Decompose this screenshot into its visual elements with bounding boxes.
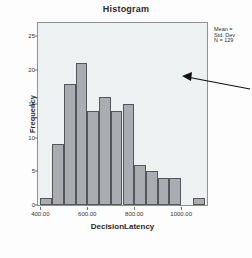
- y-axis-tick-label: 15: [21, 101, 35, 107]
- histogram-bar: [76, 63, 88, 205]
- histogram-bar: [169, 178, 181, 205]
- plot-area: Frequency 0510152025400.00600.00800.0010…: [37, 22, 208, 206]
- y-axis-tick-mark: [35, 205, 38, 206]
- page-title: Histogram: [0, 4, 252, 14]
- stats-n: N = 129: [214, 38, 235, 44]
- histogram-bar: [146, 171, 158, 205]
- x-axis-label: DecisionLatency: [37, 222, 208, 231]
- histogram-bar: [158, 178, 170, 205]
- statistics-annotation: Mean = Std. Dev N = 129: [214, 27, 235, 44]
- x-axis-tick-label: 1000.00: [161, 211, 201, 217]
- x-axis-tick-label: 800.00: [114, 211, 154, 217]
- histogram-bar: [52, 144, 64, 205]
- y-axis-tick-label: 20: [21, 67, 35, 73]
- histogram-bar: [193, 198, 205, 205]
- histogram-bar: [123, 104, 135, 205]
- y-axis-tick-label: 25: [21, 33, 35, 39]
- y-axis-tick-label: 5: [21, 168, 35, 174]
- x-axis-tick-mark: [87, 207, 88, 210]
- x-axis-tick-label: 600.00: [67, 211, 107, 217]
- x-axis-tick-mark: [134, 207, 135, 210]
- y-axis-tick-label: 10: [21, 135, 35, 141]
- y-axis-tick-mark: [35, 171, 38, 172]
- histogram-figure: Histogram Frequency 0510152025400.00600.…: [0, 0, 252, 258]
- x-axis-tick-mark: [40, 207, 41, 210]
- plot-inner: [38, 23, 207, 205]
- y-axis-tick-mark: [35, 137, 38, 138]
- histogram-bar: [64, 84, 76, 205]
- y-axis-tick-mark: [35, 103, 38, 104]
- y-axis-tick-label: 0: [21, 202, 35, 208]
- y-axis-tick-mark: [35, 36, 38, 37]
- histogram-bar: [134, 165, 146, 205]
- histogram-bar: [111, 111, 123, 205]
- histogram-bar: [99, 97, 111, 205]
- y-axis-tick-mark: [35, 70, 38, 71]
- histogram-bar: [87, 111, 99, 205]
- histogram-bar: [40, 198, 52, 205]
- x-axis-tick-mark: [181, 207, 182, 210]
- x-axis-tick-label: 400.00: [20, 211, 60, 217]
